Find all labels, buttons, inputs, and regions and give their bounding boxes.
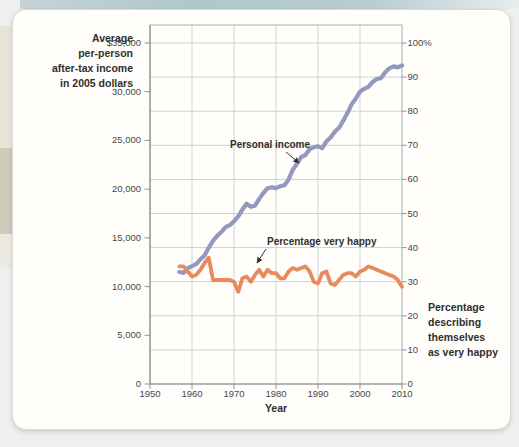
x-axis-title: Year: [150, 402, 402, 414]
left-tick-label: 25,000: [112, 134, 141, 145]
right-tick-label: 30: [408, 276, 419, 287]
right-tick-label: 10: [408, 344, 419, 355]
right-tick-label: 20: [408, 310, 419, 321]
left-axis-title: Average per-person after-tax income in 2…: [18, 31, 133, 91]
x-tick-label: 1960: [181, 388, 202, 399]
left-axis-title-line: in 2005 dollars: [18, 76, 133, 91]
right-axis-title: Percentage describing themselves as very…: [428, 300, 519, 360]
x-tick-label: 2000: [349, 388, 370, 399]
chart-generated-layer: $35,00030,00025,00020,00015,00010,0005,0…: [107, 25, 433, 399]
very-happy-label: Percentage very happy: [267, 236, 377, 247]
x-tick-label: 1980: [265, 388, 286, 399]
right-tick-label: 60: [408, 173, 419, 184]
textbook-figure: $35,00030,00025,00020,00015,00010,0005,0…: [0, 0, 519, 447]
right-axis-title-line: describing: [428, 315, 519, 330]
left-tick-label: 20,000: [112, 183, 141, 194]
left-axis-title-line: per-person: [18, 46, 133, 61]
x-tick-label: 1990: [307, 388, 328, 399]
personal-income-arrow: [286, 152, 299, 163]
right-axis-title-line: themselves: [428, 330, 519, 345]
right-tick-label: 40: [408, 242, 419, 253]
happy-line: [179, 258, 402, 292]
x-tick-label: 2010: [391, 388, 412, 399]
right-axis-title-line: as very happy: [428, 345, 519, 360]
personal-income-label: Personal income: [230, 139, 310, 150]
left-tick-label: 5,000: [117, 329, 141, 340]
very-happy-arrow: [257, 249, 266, 263]
right-axis-title-line: Percentage: [428, 300, 519, 315]
right-tick-label: 100%: [408, 37, 433, 48]
right-tick-label: 90: [408, 71, 419, 82]
left-axis-title-line: Average: [18, 31, 133, 46]
right-tick-label: 70: [408, 139, 419, 150]
x-tick-label: 1950: [139, 388, 160, 399]
x-tick-label: 1970: [223, 388, 244, 399]
left-tick-label: 10,000: [112, 281, 141, 292]
left-tick-label: 15,000: [112, 232, 141, 243]
left-axis-title-line: after-tax income: [18, 61, 133, 76]
right-tick-label: 80: [408, 105, 419, 116]
right-tick-label: 50: [408, 208, 419, 219]
